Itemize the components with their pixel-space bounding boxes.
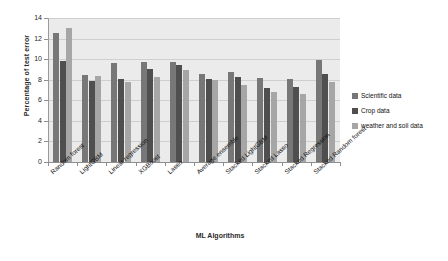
y-tick-label: 8 <box>16 76 42 83</box>
bar <box>257 78 263 162</box>
bar <box>82 75 88 162</box>
bar <box>118 79 124 162</box>
bar <box>147 69 153 162</box>
bar-group <box>165 18 194 162</box>
bar <box>154 77 160 162</box>
bar <box>66 28 72 162</box>
bar <box>183 70 189 162</box>
x-tick-mark <box>282 162 283 166</box>
x-axis-title: ML Algorithms <box>140 232 300 239</box>
y-tick-label: 12 <box>16 35 42 42</box>
bar <box>287 79 293 162</box>
bar <box>60 61 66 162</box>
bar-group <box>48 18 77 162</box>
bar <box>53 33 59 162</box>
bar-group <box>106 18 135 162</box>
bar-group <box>194 18 223 162</box>
bar <box>199 74 205 162</box>
x-tick-mark <box>311 162 312 166</box>
chart-legend: Scientific dataCrop dataweather and soil… <box>352 92 423 137</box>
bar-group <box>77 18 106 162</box>
legend-label: Crop data <box>361 107 390 114</box>
bar <box>235 77 241 162</box>
bar <box>89 81 95 162</box>
y-tick-label: 6 <box>16 96 42 103</box>
legend-label: Scientific data <box>361 92 401 99</box>
x-tick-mark <box>194 162 195 166</box>
y-tick-label: 10 <box>16 55 42 62</box>
x-tick-mark <box>252 162 253 166</box>
chart-container: Percentage of test error 02468101214 Ran… <box>0 0 448 261</box>
x-tick-mark <box>165 162 166 166</box>
x-tick-mark <box>106 162 107 166</box>
y-tick-label: 14 <box>16 14 42 21</box>
bar-group <box>282 18 311 162</box>
bar <box>264 88 270 162</box>
bar <box>111 63 117 162</box>
bar <box>95 76 101 162</box>
legend-swatch-icon <box>352 93 358 99</box>
x-tick-mark <box>77 162 78 166</box>
y-tick-label: 0 <box>16 158 42 165</box>
bar <box>293 87 299 162</box>
y-tick-label: 2 <box>16 137 42 144</box>
legend-swatch-icon <box>352 108 358 114</box>
legend-item: Crop data <box>352 107 423 114</box>
legend-item: Scientific data <box>352 92 423 99</box>
y-tick-label: 4 <box>16 117 42 124</box>
bar <box>176 65 182 162</box>
bar <box>170 62 176 162</box>
bar <box>206 79 212 162</box>
legend-label: weather and soil data <box>361 122 423 129</box>
x-tick-mark <box>340 162 341 166</box>
x-tick-mark <box>223 162 224 166</box>
bar-groups <box>48 18 340 162</box>
legend-swatch-icon <box>352 123 358 129</box>
x-tick-mark <box>48 162 49 166</box>
x-tick-mark <box>136 162 137 166</box>
legend-item: weather and soil data <box>352 122 423 129</box>
bar <box>322 74 328 162</box>
